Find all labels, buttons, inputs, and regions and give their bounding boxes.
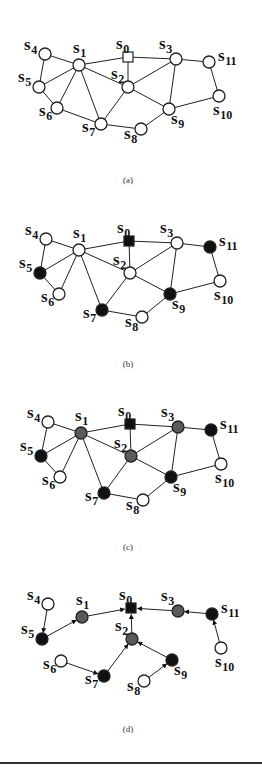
node-label-subscript: 5 (26, 261, 32, 275)
node-label: s2 (113, 250, 126, 272)
edge-s10-s9 (171, 464, 221, 477)
edge-s10-s9 (169, 96, 219, 109)
arrow-s11-s3 (184, 612, 206, 614)
node-label-subscript: 10 (222, 476, 234, 490)
node-label-subscript: 2 (121, 441, 127, 455)
node-label-subscript: 4 (34, 411, 40, 425)
arrow-s7-s2 (108, 644, 128, 671)
node-label: s0 (117, 218, 130, 240)
node-s7: s7 (82, 117, 107, 139)
node-circle-icon (40, 233, 52, 245)
node-s8: s8 (127, 675, 150, 698)
node-label: s4 (27, 403, 40, 425)
node-label-subscript: 9 (178, 117, 184, 131)
edge-s1-s0 (79, 57, 128, 65)
node-circle-icon (42, 598, 54, 610)
node-s1: s1 (73, 38, 86, 71)
node-s4: s4 (25, 220, 52, 245)
node-label-subscript: 3 (168, 410, 174, 424)
edge-s1-s0 (79, 241, 129, 250)
node-s4: s4 (27, 403, 54, 428)
node-label-subscript: 2 (120, 258, 126, 272)
node-circle-icon (206, 608, 218, 620)
node-label: s1 (73, 223, 86, 245)
node-circle-icon (54, 471, 66, 483)
panel-c: s0s1s2s3s4s5s6s7s8s9s10s11(c) (20, 401, 238, 552)
edge-s2-s9 (130, 273, 170, 294)
edge-s7-s2 (101, 87, 128, 124)
node-s3: s3 (160, 218, 183, 249)
node-label: s3 (161, 586, 174, 608)
node-label-subscript: 11 (227, 422, 238, 436)
node-label: s10 (215, 468, 234, 490)
node-circle-icon (96, 304, 108, 316)
edge-s2-s3 (131, 427, 178, 456)
node-s2: s2 (113, 250, 136, 279)
node-s0: s0 (119, 585, 136, 613)
node-label: s5 (18, 67, 31, 89)
node-label-subscript: 10 (220, 108, 232, 122)
arrow-s2-s0 (131, 614, 132, 633)
node-label: s0 (118, 401, 131, 423)
node-label-subscript: 6 (46, 109, 52, 123)
node-label: s10 (215, 652, 234, 674)
edge-s7-s2 (104, 456, 131, 493)
arrow-s9-s2 (138, 642, 167, 657)
node-label: s9 (173, 477, 186, 499)
node-s10: s10 (215, 642, 234, 674)
edge-s2-s3 (128, 59, 176, 87)
edge-s2-s9 (131, 456, 171, 477)
edge-s3-s9 (169, 59, 176, 109)
node-circle-icon (42, 416, 54, 428)
node-label-subscript: 5 (27, 444, 33, 458)
edge-s1-s0 (81, 424, 130, 433)
node-circle-icon (34, 267, 46, 279)
node-circle-icon (33, 81, 45, 93)
arrow-s5-s1 (47, 620, 76, 636)
edge-s0-s3 (130, 424, 178, 427)
node-label: s7 (85, 486, 98, 508)
edge-s0-s3 (129, 241, 177, 243)
node-label-subscript: 5 (25, 75, 31, 89)
node-s0: s0 (117, 218, 134, 246)
node-circle-icon (53, 288, 65, 300)
panel-caption: (a) (123, 175, 133, 185)
node-label-subscript: 8 (132, 320, 138, 334)
arrow-s4-s5 (43, 610, 47, 633)
node-label-subscript: 4 (32, 228, 38, 242)
node-label: s4 (27, 585, 40, 607)
node-label: s7 (83, 303, 96, 325)
node-label: s0 (116, 34, 129, 56)
node-label: s2 (114, 433, 127, 455)
node-s0: s0 (116, 34, 133, 62)
node-label: s1 (73, 38, 86, 60)
node-label-subscript: 6 (48, 295, 54, 309)
node-s9: s9 (163, 103, 184, 131)
node-circle-icon (76, 611, 88, 623)
node-label-subscript: 2 (118, 72, 124, 86)
node-label-subscript: 8 (134, 684, 140, 698)
node-s3: s3 (161, 586, 184, 617)
panel-d: s0s1s2s3s4s5s6s7s8s9s10s11(d) (21, 585, 239, 734)
node-s9: s9 (164, 288, 185, 316)
node-label: s2 (111, 64, 124, 86)
node-circle-icon (39, 48, 51, 60)
node-s9: s9 (166, 654, 187, 682)
edge-s2-s3 (130, 243, 177, 273)
node-circle-icon (95, 118, 107, 130)
bottom-rule-divider (0, 762, 262, 764)
node-label: s5 (20, 436, 33, 458)
graph-figure-canvas: s0s1s2s3s4s5s6s7s8s9s10s11(a)s0s1s2s3s4s… (0, 0, 262, 769)
node-s4: s4 (24, 35, 51, 60)
node-label-subscript: 11 (226, 239, 237, 253)
node-s6: s6 (39, 101, 63, 123)
node-label: s6 (42, 470, 55, 492)
node-label-subscript: 3 (167, 226, 173, 240)
node-label-subscript: 1 (83, 598, 89, 612)
panel-caption: (c) (123, 542, 133, 552)
node-circle-icon (205, 424, 217, 436)
node-label-subscript: 1 (80, 46, 86, 60)
node-label-subscript: 8 (131, 132, 137, 146)
node-label-subscript: 3 (166, 42, 172, 56)
arrow-s10-s11 (214, 620, 220, 642)
